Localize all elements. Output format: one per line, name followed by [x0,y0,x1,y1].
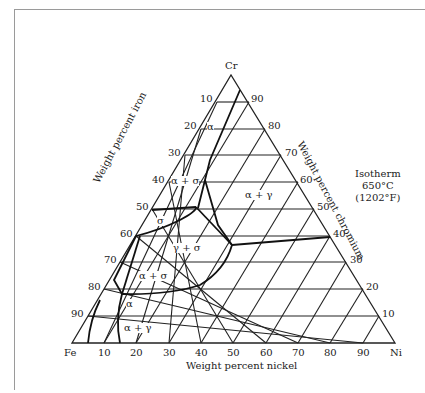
phase-label: γ + σ [173,243,201,253]
left-tick: 50 [136,202,149,212]
bottom-tick: 50 [227,348,240,358]
left-tick: 70 [104,255,117,265]
isotherm-fahrenheit: (1202°F) [355,192,401,204]
phase-label: α + σ [139,271,167,281]
phase-label: α [207,122,214,132]
bottom-tick: 10 [98,348,111,358]
bottom-tick: 40 [195,348,208,358]
bottom-tick: 30 [163,348,176,358]
left-tick: 20 [184,121,197,131]
isotherm-celsius: 650°C [355,180,401,192]
left-tick: 90 [71,309,84,319]
bottom-tick: 20 [130,348,143,358]
right-tick: 90 [251,94,264,104]
vertex-label-cr: Cr [225,61,237,71]
bottom-tick: 90 [357,348,370,358]
bottom-tick: 60 [260,348,273,358]
left-tick: 40 [152,175,165,185]
vertex-label-fe: Fe [64,348,76,358]
right-tick: 80 [268,121,281,131]
phase-label: α + γ [124,323,151,333]
left-tick: 30 [168,148,181,158]
bottom-tick: 80 [324,348,337,358]
left-tick: 10 [200,94,213,104]
vertex-label-ni: Ni [390,348,402,358]
isotherm-annotation: Isotherm 650°C (1202°F) [355,168,401,204]
right-tick: 20 [366,282,379,292]
right-tick: 60 [300,175,313,185]
bottom-tick: 70 [292,348,305,358]
left-tick: 80 [88,282,101,292]
axis-title-nickel: Weight percent nickel [186,361,297,371]
phase-label: α [126,299,133,309]
phase-label: σ [157,216,164,226]
right-tick: 70 [285,148,298,158]
isotherm-title: Isotherm [355,168,401,180]
left-tick: 60 [120,229,133,239]
phase-label: α + γ [245,190,272,200]
phase-label: α + σ [171,176,199,186]
right-tick: 10 [382,309,395,319]
